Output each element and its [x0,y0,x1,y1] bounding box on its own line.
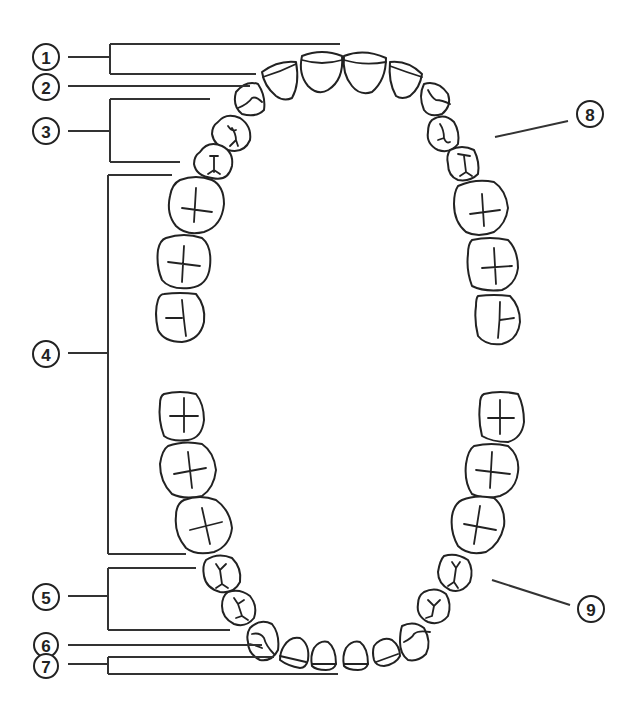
upper-arch [156,52,520,344]
lower-first-molar-left [176,497,232,553]
lower-third-molar-left [160,392,205,441]
svg-text:5: 5 [41,589,50,608]
svg-text:3: 3 [41,123,50,142]
upper-third-molar-left [156,293,204,342]
upper-third-molar-right [475,295,520,344]
leader-4 [68,175,186,554]
callout-3: 3 [33,118,59,144]
lower-lateral-incisor-left [280,638,308,668]
svg-text:6: 6 [41,637,50,656]
leader-1 [68,44,340,74]
upper-second-premolar-left [194,144,232,179]
lower-lateral-incisor-right [373,639,400,666]
lower-second-premolar-right [438,555,472,591]
lower-first-molar-right [452,496,505,553]
upper-first-molar-left [169,177,224,233]
upper-central-incisor-right [344,52,386,93]
upper-second-premolar-right [447,147,478,180]
upper-central-incisor-left [301,52,342,92]
upper-lateral-incisor-right [390,62,422,98]
callout-1: 1 [33,44,59,70]
svg-text:9: 9 [586,601,595,620]
lower-second-premolar-left [203,555,240,592]
upper-second-molar-left [158,235,211,288]
leader-8 [495,121,568,137]
callout-9: 9 [578,596,604,622]
lower-first-premolar-left [222,591,255,625]
lower-arch [160,392,525,670]
lower-second-molar-left [160,442,216,497]
svg-text:1: 1 [41,49,50,68]
upper-first-premolar-right [428,116,459,151]
svg-text:7: 7 [41,658,50,677]
leader-3 [68,99,210,162]
upper-canine-left [235,83,265,115]
callout-7: 7 [34,654,58,678]
svg-text:4: 4 [41,346,51,365]
lower-second-molar-right [466,444,519,498]
lower-first-premolar-right [418,589,450,623]
svg-text:8: 8 [585,106,594,125]
lower-canine-left [247,622,278,661]
callout-2: 2 [33,74,59,100]
upper-first-molar-right [454,181,508,235]
upper-second-molar-right [468,238,519,291]
dental-arch-diagram: 1 2 3 4 5 6 7 8 9 [0,0,639,721]
upper-lateral-incisor-left [262,62,297,100]
lower-central-incisor-left [311,642,336,670]
callout-8: 8 [577,101,603,127]
upper-canine-right [421,83,450,115]
leader-lines [68,44,570,674]
leader-9 [492,580,570,605]
lower-third-molar-right [479,392,524,442]
svg-text:2: 2 [41,79,50,98]
lower-central-incisor-right [343,642,368,670]
callout-4: 4 [33,341,59,367]
callout-5: 5 [33,584,59,610]
lower-canine-right [400,623,430,660]
